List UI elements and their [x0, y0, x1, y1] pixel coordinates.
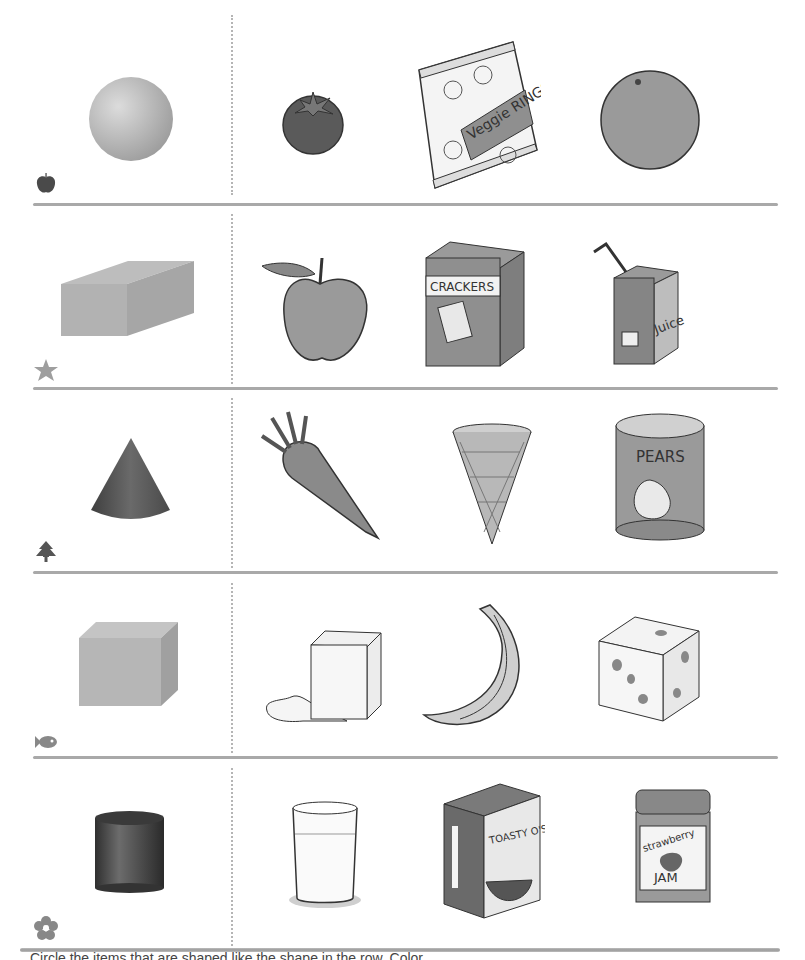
- row-separator: [33, 756, 778, 759]
- juice-box[interactable]: Juice: [592, 238, 687, 370]
- cylinder-shape: [92, 810, 167, 894]
- crackers-label: CRACKERS: [430, 280, 494, 294]
- apple-icon: [33, 172, 59, 196]
- instructions-text: Circle the items that are shaped like th…: [30, 950, 439, 960]
- worksheet-row-cylinder: TOASTY O'S strawberry JAM: [0, 760, 805, 960]
- worksheet-row-cone: PEARS: [0, 390, 805, 575]
- worksheet-row-rectangular-prism: CRACKERS Juice: [0, 206, 805, 391]
- cereal-box[interactable]: TOASTY O'S: [440, 782, 545, 922]
- cheese-cube[interactable]: [595, 613, 703, 725]
- star-icon: [33, 358, 59, 382]
- worksheet-row-sphere: Veggie RINGS: [0, 0, 805, 205]
- jam-label-2: JAM: [653, 870, 678, 885]
- fish-icon: [33, 730, 59, 754]
- ice-cube[interactable]: [263, 625, 388, 725]
- row-separator: [33, 571, 778, 574]
- cube-shape: [76, 620, 181, 708]
- carrot[interactable]: [258, 408, 383, 543]
- cone-shape: [88, 436, 173, 524]
- worksheet-row-cube: [0, 575, 805, 760]
- tomato[interactable]: [278, 80, 350, 158]
- jam-jar[interactable]: strawberry JAM: [632, 786, 714, 908]
- rectangular-prism-shape: [58, 258, 198, 338]
- flower-icon: [33, 916, 59, 940]
- apple[interactable]: [260, 254, 375, 369]
- sphere-shape: [85, 75, 180, 165]
- dotted-divider: [231, 398, 233, 568]
- dotted-divider: [231, 583, 233, 753]
- dotted-divider: [231, 15, 233, 195]
- pears-can[interactable]: PEARS: [612, 412, 708, 542]
- veggie-rings-bag[interactable]: Veggie RINGS: [413, 40, 541, 192]
- crackers-box[interactable]: CRACKERS: [420, 238, 530, 373]
- dotted-divider: [231, 214, 233, 384]
- tree-icon: [33, 540, 59, 564]
- pears-label: PEARS: [636, 448, 685, 466]
- dotted-divider: [231, 768, 233, 946]
- ice-cream-cone[interactable]: [450, 422, 535, 547]
- banana[interactable]: [420, 603, 535, 728]
- glass-of-milk[interactable]: [285, 800, 365, 912]
- orange[interactable]: [598, 68, 703, 173]
